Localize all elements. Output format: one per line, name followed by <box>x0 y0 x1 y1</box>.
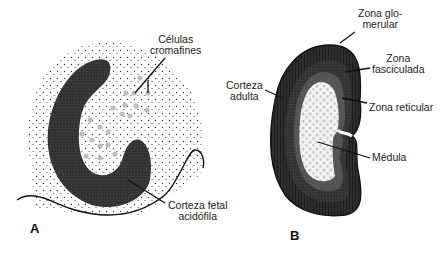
label-zona-glomerular: Zona glo- merular <box>358 8 402 30</box>
label-medula: Médula <box>372 152 406 163</box>
label-zona-fasciculada: Zona fasciculada <box>372 53 425 75</box>
panel-label-b: B <box>290 228 299 243</box>
panel-label-a: A <box>30 221 39 236</box>
leader-zona-glomerular <box>340 32 355 43</box>
label-corteza-fetal-acidofila: Corteza fetal acidófila <box>168 200 228 222</box>
panel-b-illustration <box>265 32 370 216</box>
medulla-shape <box>299 82 338 181</box>
label-celulas-cromafines: Células cromafines <box>150 34 201 56</box>
panel-a-illustration <box>17 42 204 215</box>
label-zona-reticular: Zona reticular <box>369 102 433 113</box>
label-corteza-adulta: Corteza adulta <box>226 80 263 102</box>
